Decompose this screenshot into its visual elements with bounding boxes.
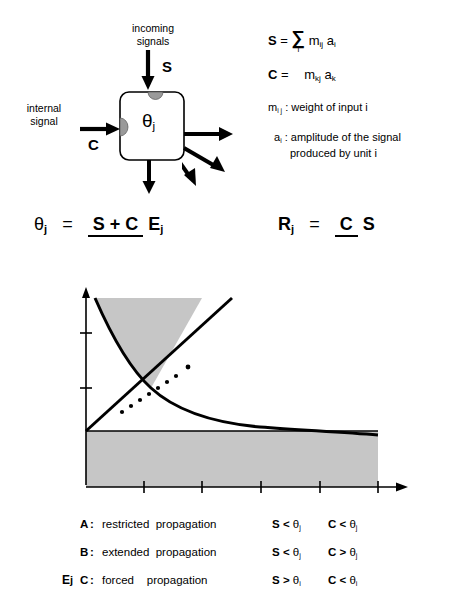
r-formula-fraction: C S <box>335 214 375 235</box>
output-arrow-down <box>140 160 162 196</box>
equation-S: S = ∑ i mij ai <box>268 30 464 53</box>
legend-row-b: B : extended propagation S < θj C > θj <box>80 546 464 560</box>
unit-theta-symbol: θj <box>142 110 155 132</box>
legend-cond1-c: S > θi <box>272 574 328 588</box>
eq-C-term-a: ak <box>325 67 336 82</box>
theta-formula: θj = S + C Ej <box>34 213 163 235</box>
eq-C-equals: = <box>281 67 289 82</box>
legend-key-c: C <box>80 574 90 586</box>
def-a-subscript: i <box>280 137 282 144</box>
equations-panel: S = ∑ i mij ai C = mkj ak mi j : weight … <box>268 30 464 160</box>
def-m-subscript: i j <box>277 107 282 114</box>
eq-S-term-m: mij <box>309 33 323 48</box>
eq-S-equals: = <box>280 33 288 48</box>
incoming-signals-label: incoming signals <box>108 22 198 47</box>
phase-plot: Ej Rj <box>0 285 464 500</box>
internal-signal-line1: internal <box>27 102 61 114</box>
legend-row-c: C : forced propagation S > θi C < θi <box>80 574 464 588</box>
theta-subscript: j <box>153 119 156 132</box>
def-a-text-line2: produced by unit i <box>290 147 377 159</box>
theta-glyph: θ <box>142 110 153 131</box>
y-axis-label: Ej <box>62 573 73 587</box>
theta-formula-equals: = <box>62 214 73 234</box>
internal-symbol-C: C <box>88 136 99 153</box>
r-formula-lhs: Rj <box>278 214 294 234</box>
theta-formula-lhs: θj <box>34 214 47 234</box>
legend-name-b: extended propagation <box>102 546 272 558</box>
legend-table: A : restricted propagation S < θj C < θj… <box>80 518 464 588</box>
legend-cond1-b: S < θj <box>272 546 328 560</box>
incoming-symbol-S: S <box>162 58 172 75</box>
def-m-text: : weight of input i <box>285 101 368 113</box>
legend-name-a: restricted propagation <box>102 518 272 530</box>
legend-cond2-b: C > θj <box>328 546 357 560</box>
theta-numerator: S + C <box>88 214 144 237</box>
r-formula-equals: = <box>309 214 320 234</box>
theta-formula-fraction: S + C Ej <box>88 214 164 235</box>
legend-cond2-c: C < θi <box>328 574 357 588</box>
incoming-signals-line2: signals <box>137 35 170 47</box>
legend-key-a: A <box>80 518 90 530</box>
internal-signal-label: internal signal <box>6 102 82 127</box>
internal-arrow-icon <box>80 118 122 140</box>
equation-C: C = mkj ak <box>268 67 464 83</box>
incoming-signals-line1: incoming <box>132 22 174 34</box>
r-denominator: S <box>363 212 375 234</box>
plot-canvas <box>0 285 464 500</box>
definition-m: mi j : weight of input i <box>268 101 464 117</box>
x-axis-arrowhead <box>396 483 408 492</box>
eq-C-lhs: C <box>268 67 277 82</box>
sigma-icon: ∑ <box>292 30 306 46</box>
legend-key-b: B <box>80 546 90 558</box>
legend-row-a: A : restricted propagation S < θj C < θj <box>80 518 464 532</box>
legend-name-c: forced propagation <box>102 574 272 586</box>
eq-S-lhs: S <box>268 33 277 48</box>
r-numerator: C <box>335 214 358 237</box>
eq-S-term-a: ai <box>327 33 336 48</box>
def-a-text-line1: : amplitude of the signal <box>285 131 401 143</box>
theta-denominator: Ej <box>148 212 163 234</box>
def-m-symbol: m <box>268 101 277 113</box>
r-formula: Rj = C S <box>278 213 375 235</box>
eq-C-term-m: mkj <box>304 67 321 82</box>
legend-cond1-a: S < θj <box>272 518 328 532</box>
unit-diagram: incoming signals S internal signal C θj <box>0 0 260 200</box>
output-arrows <box>182 115 256 195</box>
legend-cond2-a: C < θj <box>328 518 357 532</box>
internal-signal-line2: signal <box>30 115 57 127</box>
y-axis-arrowhead <box>82 287 90 298</box>
definition-a: ai : amplitude of the signal produced by… <box>268 131 464 160</box>
